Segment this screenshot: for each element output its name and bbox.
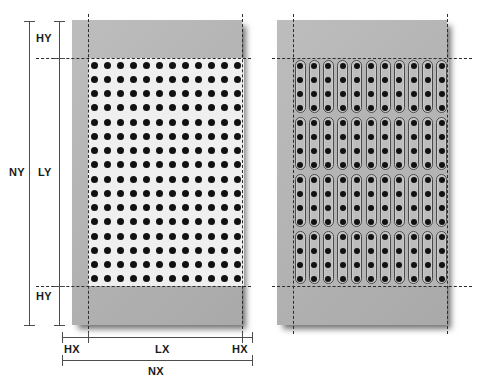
hole	[195, 218, 202, 225]
hole	[411, 162, 417, 168]
hole	[91, 261, 98, 268]
hole	[439, 248, 445, 254]
hole	[382, 63, 388, 69]
hole	[221, 190, 228, 197]
hole	[382, 91, 388, 97]
hole	[396, 77, 402, 83]
hole	[396, 262, 402, 268]
hole	[396, 177, 402, 183]
hole	[195, 275, 202, 282]
hole	[104, 62, 111, 69]
hole	[208, 233, 215, 240]
hole	[91, 275, 98, 282]
hole	[143, 90, 150, 97]
hole	[169, 233, 176, 240]
hole	[354, 148, 360, 154]
hole	[117, 76, 124, 83]
hole	[234, 62, 241, 69]
hole	[143, 190, 150, 197]
dimension-tick-hx-left-start	[62, 332, 63, 343]
hole	[425, 177, 431, 183]
hole	[382, 148, 388, 154]
hole	[411, 120, 417, 126]
dimension-label-hy-top: HY	[36, 33, 52, 44]
hole	[221, 247, 228, 254]
hole	[117, 133, 124, 140]
hole	[297, 134, 303, 140]
hole	[208, 161, 215, 168]
hole	[396, 162, 402, 168]
hole	[396, 205, 402, 211]
hole	[425, 120, 431, 126]
hole	[143, 233, 150, 240]
hole	[182, 204, 189, 211]
hole	[297, 234, 303, 240]
hole	[91, 190, 98, 197]
hole	[425, 162, 431, 168]
hole	[234, 247, 241, 254]
hole	[425, 248, 431, 254]
hole	[368, 276, 374, 282]
hole	[143, 176, 150, 183]
hole	[156, 104, 163, 111]
hole	[117, 147, 124, 154]
hole	[311, 219, 317, 225]
hole	[221, 104, 228, 111]
hole	[195, 90, 202, 97]
hole	[182, 176, 189, 183]
hole	[195, 161, 202, 168]
hole	[182, 261, 189, 268]
hole	[130, 261, 137, 268]
hole	[354, 77, 360, 83]
hole	[195, 76, 202, 83]
hole	[382, 105, 388, 111]
dimension-label-nx: NX	[148, 366, 164, 377]
hole	[143, 119, 150, 126]
hole	[354, 63, 360, 69]
hole	[297, 63, 303, 69]
hole	[156, 62, 163, 69]
dimension-tick-hy-bottom-lower	[54, 325, 65, 326]
hole	[354, 177, 360, 183]
hole	[311, 148, 317, 154]
hole	[169, 176, 176, 183]
hole	[130, 76, 137, 83]
hole	[182, 76, 189, 83]
dimension-tick-nx-right	[252, 355, 253, 366]
hole	[221, 90, 228, 97]
hole	[91, 133, 98, 140]
hole	[117, 119, 124, 126]
hole	[169, 133, 176, 140]
hole	[382, 177, 388, 183]
hole	[439, 177, 445, 183]
hole	[156, 275, 163, 282]
hole	[354, 120, 360, 126]
hole	[91, 62, 98, 69]
hole	[182, 247, 189, 254]
hole	[195, 176, 202, 183]
hole	[117, 90, 124, 97]
hole	[382, 134, 388, 140]
hole	[143, 218, 150, 225]
hole	[297, 248, 303, 254]
hole	[234, 104, 241, 111]
hole	[143, 76, 150, 83]
dashed-guide-right-y2	[272, 286, 472, 287]
hole	[195, 247, 202, 254]
hole	[425, 191, 431, 197]
hole	[411, 262, 417, 268]
dimension-label-lx: LX	[155, 344, 170, 355]
hole	[104, 190, 111, 197]
hole	[130, 62, 137, 69]
hole	[208, 247, 215, 254]
hole	[340, 77, 346, 83]
hole	[340, 205, 346, 211]
dimension-tick-lx-end	[242, 332, 243, 343]
hole	[104, 76, 111, 83]
hole	[234, 76, 241, 83]
hole	[368, 205, 374, 211]
hole	[382, 120, 388, 126]
hole	[117, 275, 124, 282]
hole	[221, 76, 228, 83]
hole	[156, 261, 163, 268]
